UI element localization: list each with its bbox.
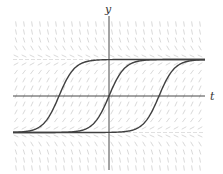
slope-segment	[152, 165, 153, 170]
slope-segment	[54, 55, 59, 57]
slope-segment	[79, 110, 81, 115]
slope-segment	[94, 63, 99, 65]
slope-segment	[70, 135, 75, 137]
slope-segment	[47, 86, 49, 91]
slope-segment	[190, 63, 195, 65]
slope-segment	[143, 38, 145, 43]
slope-segment	[151, 142, 154, 146]
slope-segment	[63, 38, 65, 43]
slope-segment	[191, 110, 193, 115]
slope-segment	[158, 55, 163, 57]
slope-segment	[103, 78, 105, 83]
slope-segment	[62, 118, 65, 122]
slope-segment	[46, 70, 49, 74]
slope-segment	[119, 29, 120, 34]
slope-segment	[16, 21, 17, 26]
slope-segment	[23, 110, 25, 115]
slope-segment	[79, 102, 81, 107]
slope-segment	[32, 21, 33, 26]
slope-segment	[39, 150, 41, 155]
slope-segment	[30, 55, 35, 57]
slope-segment	[23, 86, 25, 91]
slope-segment	[168, 165, 169, 170]
slope-segment	[175, 142, 178, 146]
slope-segment	[94, 70, 97, 74]
slope-segment	[159, 142, 162, 146]
slope-segment	[127, 38, 129, 43]
slope-segment	[31, 157, 32, 162]
slope-segment	[191, 142, 194, 146]
slope-segment	[102, 135, 107, 137]
slope-segment	[111, 38, 113, 43]
slope-segment	[144, 165, 145, 170]
slope-segment	[167, 29, 168, 34]
slope-segment	[95, 29, 96, 34]
slope-segment	[46, 127, 51, 129]
slope-segment	[55, 86, 57, 91]
slope-segment	[71, 150, 73, 155]
slope-segment	[95, 110, 97, 115]
slope-segment	[86, 118, 89, 122]
slope-segment	[71, 157, 72, 162]
slope-segment	[127, 29, 128, 34]
slope-segment	[32, 165, 33, 170]
slope-segment	[151, 78, 153, 83]
slope-segment	[143, 46, 146, 50]
y-axis-label: y	[104, 3, 112, 16]
slope-segment	[190, 118, 193, 122]
slope-segment	[175, 38, 177, 43]
slope-segment	[47, 157, 48, 162]
slope-segment	[79, 46, 82, 50]
slope-segment	[71, 29, 72, 34]
slope-segment	[143, 110, 145, 115]
slope-segment	[167, 142, 170, 146]
slope-segment	[182, 55, 187, 57]
slope-segment	[88, 165, 89, 170]
slope-segment	[15, 78, 17, 83]
slope-segment	[167, 38, 169, 43]
slope-segment	[15, 46, 18, 50]
slope-segment	[96, 21, 97, 26]
slope-segment	[167, 102, 169, 107]
slope-segment	[55, 29, 56, 34]
slope-segment	[119, 150, 121, 155]
slope-segment	[48, 165, 49, 170]
slope-segment	[142, 55, 147, 57]
slope-segment	[183, 150, 185, 155]
slope-segment	[63, 102, 65, 107]
slope-segment	[192, 21, 193, 26]
slope-segment	[128, 165, 129, 170]
slope-segment	[31, 150, 33, 155]
slope-segment	[24, 165, 25, 170]
slope-segment	[110, 70, 113, 74]
slope-segment	[199, 110, 201, 115]
slope-segment	[127, 78, 129, 83]
slope-segment	[166, 135, 171, 137]
slope-segment	[87, 29, 88, 34]
slope-segment	[199, 142, 202, 146]
slope-segment	[142, 127, 147, 129]
slope-segment	[198, 127, 203, 129]
slope-segment	[63, 29, 64, 34]
slope-segment	[191, 150, 193, 155]
slope-segment	[199, 29, 200, 34]
slope-segment	[158, 118, 161, 122]
slope-segment	[104, 165, 105, 170]
slope-segment	[135, 157, 136, 162]
slope-segment	[54, 70, 57, 74]
slope-segment	[126, 118, 129, 122]
slope-segment	[14, 127, 19, 129]
slope-segment	[31, 86, 33, 91]
slope-segment	[191, 86, 193, 91]
slope-segment	[56, 165, 57, 170]
slope-segment	[198, 70, 201, 74]
slope-segment	[135, 102, 137, 107]
slope-segment	[46, 135, 51, 137]
slope-segment	[31, 46, 34, 50]
slope-segment	[151, 29, 152, 34]
slope-segment	[70, 118, 73, 122]
slope-segment	[31, 102, 33, 107]
slope-segment	[48, 21, 49, 26]
slope-segment	[119, 38, 121, 43]
slope-segment	[167, 86, 169, 91]
